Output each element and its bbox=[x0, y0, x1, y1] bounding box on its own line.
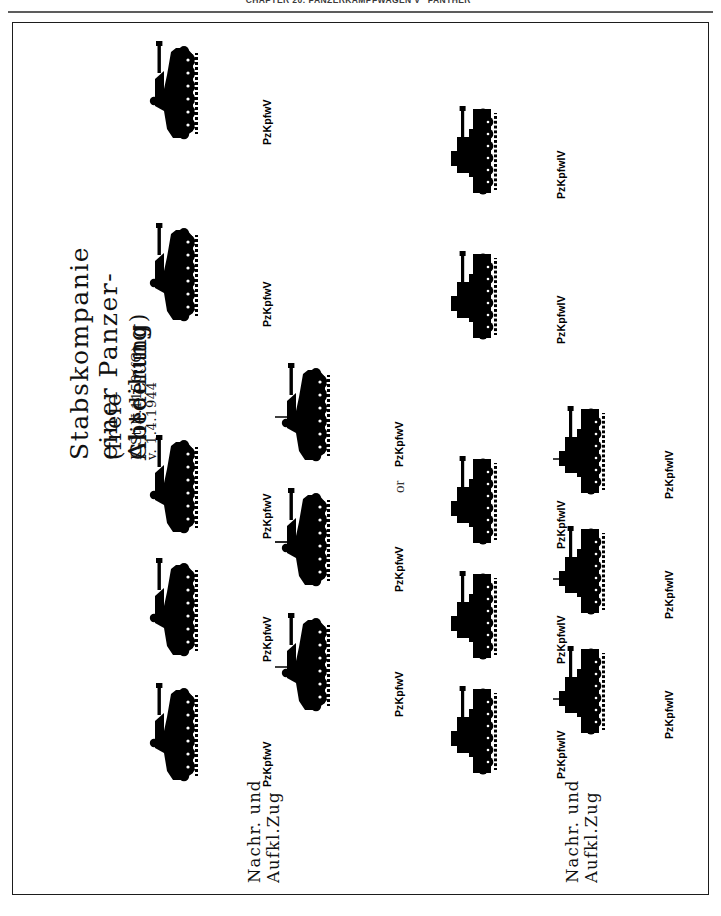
tank-unit-pz4-command: PzKpfwIV bbox=[553, 643, 661, 709]
tank-type-label: PzKpfwV bbox=[261, 99, 273, 145]
alternative-connector-label: or bbox=[391, 481, 408, 494]
pz4-icon bbox=[445, 568, 505, 664]
panzer-iv-silhouette bbox=[445, 248, 505, 344]
tank-unit-pz4-command: PzKpfwIV bbox=[553, 523, 661, 589]
panther-silhouette bbox=[143, 558, 205, 662]
tank-unit-panther: PzKpfwV bbox=[143, 435, 251, 501]
tank-type-label: PzKpfwIV bbox=[663, 450, 675, 499]
tank-type-label: PzKpfwV bbox=[261, 616, 273, 662]
tank-unit-panther: PzKpfwV bbox=[143, 41, 251, 107]
antenna-icon bbox=[275, 405, 287, 417]
tank-type-label: PzKpfwIV bbox=[663, 570, 675, 619]
tank-type-label: PzKpfwV bbox=[261, 281, 273, 327]
panzer-iv-silhouette bbox=[445, 568, 505, 664]
panzer-iv-silhouette bbox=[445, 683, 505, 779]
header-rule bbox=[8, 11, 713, 13]
panther-icon bbox=[143, 683, 205, 787]
panther-silhouette bbox=[143, 223, 205, 327]
panther-silhouette bbox=[275, 613, 337, 717]
running-head: CHAPTER 20: PANZERKAMPFWAGEN V "PANTHER" bbox=[0, 0, 721, 5]
tank-unit-panther-command: PzKpfwV bbox=[275, 613, 383, 679]
tank-type-label: PzKpfwIV bbox=[663, 690, 675, 739]
tank-type-label: PzKpfwV bbox=[261, 493, 273, 539]
tank-unit-pz4: PzKpfwIV bbox=[445, 568, 553, 634]
panzer-iv-silhouette bbox=[553, 403, 613, 499]
platoon-label-line-2: Aufkl.Zug bbox=[264, 779, 283, 883]
platoon-label: Nachr. undAufkl.Zug bbox=[563, 779, 601, 883]
tank-unit-pz4: PzKpfwIV bbox=[445, 103, 553, 169]
panther-silhouette bbox=[143, 41, 205, 145]
pz4-icon bbox=[445, 103, 505, 199]
platoon-label-line-2: Aufkl.Zug bbox=[582, 779, 601, 883]
tank-unit-panther-command: PzKpfwV bbox=[275, 363, 383, 429]
pz4-icon bbox=[445, 683, 505, 779]
pz4-icon bbox=[553, 403, 613, 499]
pz4-icon bbox=[445, 248, 505, 344]
tank-unit-panther: PzKpfwV bbox=[143, 223, 251, 289]
panzer-iv-silhouette bbox=[445, 453, 505, 549]
antenna-icon bbox=[275, 655, 287, 667]
antenna-icon bbox=[275, 530, 287, 542]
tank-unit-pz4-command: PzKpfwIV bbox=[553, 403, 661, 469]
pz4-icon bbox=[445, 453, 505, 549]
antenna-icon bbox=[553, 447, 559, 459]
tank-type-label: PzKpfwV bbox=[393, 671, 405, 717]
tank-unit-panther: PzKpfwV bbox=[143, 558, 251, 624]
tank-unit-panther-command: PzKpfwV bbox=[275, 488, 383, 554]
platoon-label-line-1: Nachr. und bbox=[245, 779, 264, 883]
panther-silhouette bbox=[275, 363, 337, 467]
panther-silhouette bbox=[275, 488, 337, 592]
panzer-iv-silhouette bbox=[445, 103, 505, 199]
panther-icon bbox=[143, 223, 205, 327]
antenna-icon bbox=[553, 567, 559, 579]
tank-unit-pz4: PzKpfwIV bbox=[445, 453, 553, 519]
tank-type-label: PzKpfwIV bbox=[555, 500, 567, 549]
tank-unit-pz4: PzKpfwIV bbox=[445, 248, 553, 314]
platoon-label-line-1: Nachr. und bbox=[563, 779, 582, 883]
tank-type-label: PzKpfwV bbox=[261, 741, 273, 787]
tank-type-label: PzKpfwIV bbox=[555, 615, 567, 664]
tank-type-label: PzKpfwV bbox=[393, 546, 405, 592]
platoon-label: Nachr. undAufkl.Zug bbox=[245, 779, 283, 883]
panther-silhouette bbox=[143, 683, 205, 787]
panther-icon bbox=[143, 435, 205, 539]
panther-icon bbox=[275, 488, 337, 592]
panther-icon bbox=[143, 41, 205, 145]
panther-icon bbox=[275, 613, 337, 717]
antenna-icon bbox=[553, 687, 559, 699]
tank-type-label: PzKpfwIV bbox=[555, 730, 567, 779]
tank-unit-panther: PzKpfwV bbox=[143, 683, 251, 749]
tank-unit-pz4: PzKpfwIV bbox=[445, 683, 553, 749]
figure-frame: Stabskompanie einer Panzer-Abteilung (fr… bbox=[12, 22, 709, 895]
document-page: CHAPTER 20: PANZERKAMPFWAGEN V "PANTHER"… bbox=[0, 0, 721, 916]
tank-type-label: PzKpfwIV bbox=[555, 295, 567, 344]
tank-type-label: PzKpfwV bbox=[393, 421, 405, 467]
panther-icon bbox=[143, 558, 205, 662]
panther-icon bbox=[275, 363, 337, 467]
tank-type-label: PzKpfwIV bbox=[555, 150, 567, 199]
panther-silhouette bbox=[143, 435, 205, 539]
